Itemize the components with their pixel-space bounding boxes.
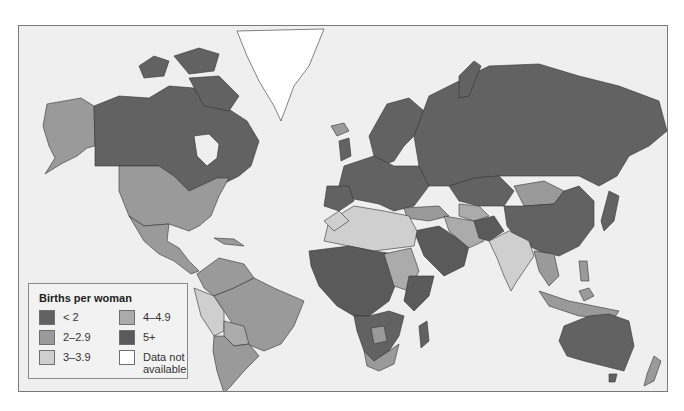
legend-swatch [39,330,55,345]
legend-item-2-2.9: 2–2.9 [39,330,119,345]
legend-swatch [119,350,135,365]
legend-item-4-4.9: 4–4.9 [119,310,189,325]
region-russia [414,64,667,186]
legend-item-no-data: Data not available [119,350,189,375]
region-europe [339,156,429,211]
legend-title: Births per woman [39,292,177,304]
map-frame: Births per woman < 2 4–4.9 2–2.9 5+ 3–3.… [18,25,668,392]
legend-swatch [119,330,135,345]
legend-swatch [39,350,55,365]
legend-item-3-3.9: 3–3.9 [39,350,119,375]
legend-item-lt2: < 2 [39,310,119,325]
region-india [489,231,534,291]
region-alaska [43,98,95,174]
legend-item-5plus: 5+ [119,330,189,345]
legend-swatch [119,310,135,325]
map-legend: Births per woman < 2 4–4.9 2–2.9 5+ 3–3.… [28,283,188,379]
legend-swatch [39,310,55,325]
region-greenland [237,29,324,121]
region-australia [559,314,634,371]
